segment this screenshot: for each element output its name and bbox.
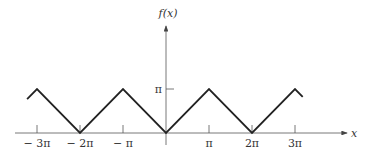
y-tick-label: π	[155, 83, 162, 96]
triangle-wave-line	[27, 89, 303, 133]
y-axis-label: f(x)	[158, 7, 178, 20]
x-tick-label: − 3π	[24, 137, 51, 150]
x-tick-label: − 2π	[67, 137, 94, 150]
y-ticks: π	[155, 83, 174, 96]
x-tick-label: 2π	[245, 137, 259, 150]
x-tick-label: − π	[113, 137, 133, 150]
chart-canvas: − 3π− 2π− ππ2π3π π f(x) x	[0, 0, 367, 155]
x-tick-label: π	[205, 137, 212, 150]
x-axis-label: x	[351, 127, 358, 140]
x-tick-label: 3π	[288, 137, 302, 150]
